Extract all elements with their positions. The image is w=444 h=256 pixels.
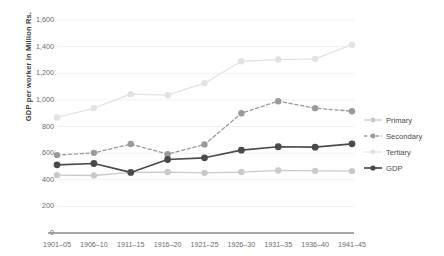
data-point-gdp-7 [312,144,319,151]
legend-marker-icon [363,115,383,125]
legend-marker-icon [363,147,383,157]
legend-item-label: Primary [386,116,412,125]
data-point-tertiary-5 [238,58,244,64]
legend-marker-icon [363,131,383,141]
data-point-gdp-4 [201,154,208,161]
data-point-gdp-0 [54,161,61,168]
legend-item-primary[interactable]: Primary [363,112,422,128]
data-point-tertiary-1 [91,105,97,111]
data-point-secondary-0 [54,152,60,158]
data-point-primary-7 [312,168,318,174]
data-point-primary-0 [54,172,60,178]
legend-item-label: Tertiary [386,148,411,157]
legend-item-label: GDP [386,164,402,173]
data-point-secondary-5 [238,110,244,116]
data-point-gdp-6 [275,143,282,150]
data-point-secondary-1 [91,150,97,156]
data-point-gdp-5 [238,147,245,154]
data-point-primary-3 [164,169,170,175]
data-point-primary-6 [275,167,281,173]
legend-item-gdp[interactable]: GDP [363,160,422,176]
data-point-secondary-4 [201,141,207,147]
data-point-primary-1 [91,172,97,178]
legend-item-tertiary[interactable]: Tertiary [363,144,422,160]
data-point-secondary-2 [128,141,134,147]
data-point-secondary-7 [312,105,318,111]
data-point-tertiary-7 [312,56,318,62]
x-axis-tick-label: 1911–15 [117,240,144,249]
data-point-tertiary-6 [275,56,281,62]
x-axis-tick-label: 1921–25 [191,240,219,249]
data-point-primary-4 [201,170,207,176]
x-axis-tick-label: 1901–05 [43,240,71,249]
data-point-tertiary-0 [54,114,60,120]
x-axis-tick-label: 1916–20 [154,240,182,249]
data-point-tertiary-2 [128,91,134,97]
chart-legend: PrimarySecondaryTertiaryGDP [363,112,422,176]
data-point-primary-5 [238,169,244,175]
data-point-secondary-8 [349,108,355,114]
x-axis-tick-label: 1906–10 [80,240,108,249]
data-point-tertiary-3 [164,92,170,98]
line-chart: GDP per worker in Million Rs. 0200400600… [0,0,444,256]
x-axis-tick-label: 1926–30 [227,240,255,249]
legend-marker-icon [363,163,383,173]
x-axis-tick-label: 1931–35 [264,240,292,249]
legend-item-label: Secondary [386,132,422,141]
data-point-secondary-6 [275,98,281,104]
x-axis-tick-label: 1941–45 [338,240,366,249]
data-point-gdp-2 [127,169,134,176]
legend-item-secondary[interactable]: Secondary [363,128,422,144]
data-point-gdp-3 [164,156,171,163]
data-point-gdp-8 [349,140,356,147]
data-point-tertiary-4 [201,80,207,86]
x-axis-tick-label: 1936–40 [301,240,329,249]
data-point-gdp-1 [90,160,97,167]
data-point-tertiary-8 [349,41,355,47]
data-point-primary-8 [349,168,355,174]
